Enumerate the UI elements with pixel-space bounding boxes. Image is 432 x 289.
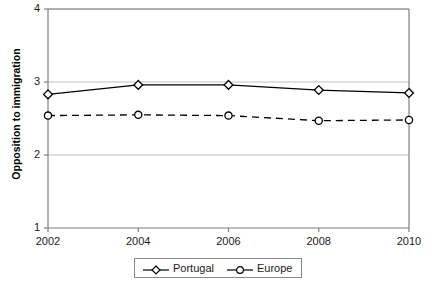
- legend-label-portugal: Portugal: [173, 262, 214, 274]
- chart-figure: Opposition to immigration 1234 200220042…: [0, 0, 432, 289]
- data-point-marker: [44, 112, 51, 119]
- data-point-marker: [44, 90, 53, 99]
- chart-legend: Portugal Europe: [134, 258, 302, 278]
- legend-marker-circle-icon: [227, 262, 253, 274]
- legend-entry-portugal: Portugal: [143, 259, 214, 277]
- legend-marker-diamond-icon: [143, 262, 169, 274]
- legend-label-europe: Europe: [257, 262, 292, 274]
- data-point-marker: [314, 86, 323, 95]
- plot-canvas: [0, 0, 432, 289]
- data-point-marker: [405, 89, 414, 98]
- data-point-marker: [315, 117, 322, 124]
- data-point-marker: [225, 112, 232, 119]
- legend-entry-europe: Europe: [227, 259, 292, 277]
- data-point-marker: [135, 111, 142, 118]
- data-point-marker: [405, 116, 412, 123]
